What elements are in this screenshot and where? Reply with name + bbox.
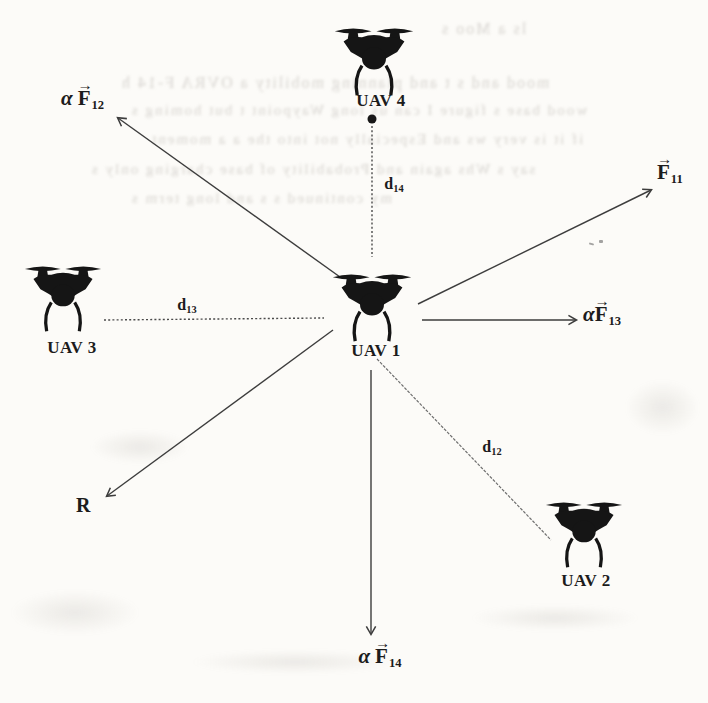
vector-r-arrow bbox=[107, 330, 333, 496]
vector-arrow-glyph: → bbox=[78, 77, 92, 94]
uav4-label: UAV 4 bbox=[356, 91, 406, 111]
distance-d13-label: d13 bbox=[177, 296, 196, 315]
distance-d12-label: d12 bbox=[482, 438, 501, 457]
alpha-f12-label: α→F12 bbox=[61, 86, 104, 113]
scanned-figure-page: ls a Moo s mood and s t and planning mob… bbox=[0, 0, 708, 703]
d14-origin-dot bbox=[368, 115, 377, 124]
alpha-f13-label: α→F13 bbox=[583, 302, 621, 329]
alpha-symbol: α bbox=[358, 644, 370, 668]
uav3-label: UAV 3 bbox=[47, 338, 97, 358]
uav1-label: UAV 1 bbox=[351, 341, 401, 361]
vector-arrow-glyph: → bbox=[595, 293, 609, 310]
uav3-drone-icon bbox=[25, 266, 101, 331]
uav4-drone-icon bbox=[335, 29, 413, 96]
alpha-symbol: α bbox=[583, 302, 595, 326]
vector-alpha-f12-arrow bbox=[118, 118, 340, 277]
vector-arrow-glyph: → bbox=[657, 151, 671, 168]
uav2-drone-icon bbox=[546, 502, 622, 567]
distance-d14-label: d14 bbox=[384, 175, 403, 194]
distance-d12-line bbox=[377, 359, 551, 540]
uav2-label: UAV 2 bbox=[561, 571, 611, 591]
alpha-symbol: α bbox=[61, 86, 73, 110]
f11-label: →F11 bbox=[657, 160, 683, 187]
alpha-f14-label: α→F14 bbox=[358, 644, 401, 671]
distance-d13-line bbox=[104, 318, 324, 320]
vector-arrow-glyph: → bbox=[375, 635, 389, 652]
uav1-drone-icon bbox=[333, 275, 411, 342]
vector-f11-arrow bbox=[418, 190, 651, 304]
resultant-r-label: R bbox=[76, 494, 90, 517]
